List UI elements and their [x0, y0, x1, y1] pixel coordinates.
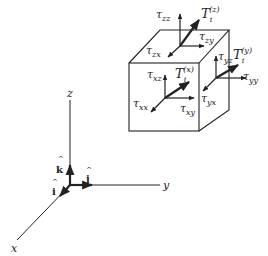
traction-x-arrow [165, 82, 189, 98]
stress-cube-figure: z y x ^ k ^ j ^ i τzz τzy τzx Ti(z) τxz … [0, 0, 268, 256]
traction-x-label: Ti(x) [175, 65, 194, 84]
unit-k-label: k [56, 164, 64, 175]
i-hat-mark: ^ [52, 178, 58, 186]
unit-i-label: i [52, 186, 56, 197]
tau-xx-arrow [151, 98, 165, 112]
traction-y-arrow [216, 65, 238, 78]
tau-yx-label: τyx [201, 92, 217, 107]
unit-j-label: j [85, 173, 90, 184]
tau-zy-label: τzy [199, 30, 214, 45]
tau-yz-label: τyz [218, 50, 234, 65]
z-axis-label: z [66, 87, 73, 100]
traction-z-arrow [180, 20, 199, 46]
tau-zx-label: τzx [146, 44, 161, 59]
k-hat-mark: ^ [58, 155, 64, 163]
unit-vector-i-arrow [60, 185, 70, 196]
tau-xy-label: τxy [180, 102, 196, 117]
traction-y-label: Ti(y) [233, 46, 252, 65]
diagram-svg: z y x ^ k ^ j ^ i τzz τzy τzx Ti(z) τxz … [0, 0, 268, 256]
y-axis-label: y [162, 179, 170, 192]
tau-yx-arrow [203, 78, 216, 91]
tau-zx-arrow [168, 46, 180, 57]
tau-zz-label: τzz [156, 8, 171, 23]
traction-z-label: Ti(z) [201, 5, 220, 24]
tau-xz-label: τxz [147, 68, 163, 83]
tau-yy-label: τyy [243, 70, 259, 85]
tau-xx-label: τxx [133, 97, 149, 112]
x-axis-label: x [11, 242, 18, 255]
